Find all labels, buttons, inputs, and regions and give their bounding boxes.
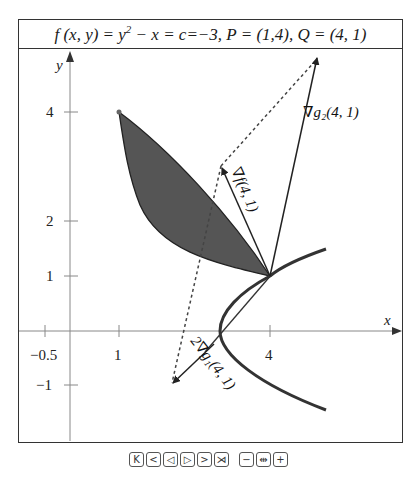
next-button[interactable]: > — [197, 452, 212, 467]
point-P — [117, 110, 122, 115]
first-frame-button[interactable]: K — [129, 452, 144, 467]
grad-f-label: ∇f(4, 1) — [227, 165, 262, 215]
y-tick-label: −1 — [36, 377, 52, 393]
y-axis-label: y — [54, 57, 63, 73]
dashed-line — [221, 60, 316, 166]
x-axis-arrow-icon — [392, 327, 402, 335]
plot-area: x y −0.5 1 4 4 2 1 −1 ∇g₂(4, 1) ∇f(4, 1)… — [0, 0, 420, 477]
zoom-in-button[interactable]: + — [273, 452, 288, 467]
y-tick-label: 1 — [46, 268, 54, 284]
spacer — [231, 452, 237, 467]
reset-speed-button[interactable]: ⇹ — [256, 452, 271, 467]
x-axis-label: x — [383, 312, 391, 328]
x-tick-label: 1 — [114, 347, 122, 363]
tangent-line — [205, 274, 272, 352]
zoom-out-button[interactable]: − — [239, 452, 254, 467]
y-axis-arrow-icon — [66, 51, 74, 62]
animation-controls: K < ◁ ▷ > ⋊ − ⇹ + — [129, 452, 288, 467]
step-back-button[interactable]: ◁ — [163, 452, 178, 467]
y-tick-label: 4 — [46, 104, 54, 120]
last-frame-button[interactable]: ⋊ — [214, 452, 229, 467]
level-curve — [220, 249, 326, 410]
previous-button[interactable]: < — [146, 452, 161, 467]
step-forward-button[interactable]: ▷ — [180, 452, 195, 467]
y-tick-label: 2 — [46, 213, 54, 229]
x-tick-label: −0.5 — [30, 347, 57, 363]
grad-g2-vector — [270, 58, 317, 276]
x-tick-label: 4 — [265, 347, 273, 363]
grad-g2-label: ∇g₂(4, 1) — [303, 104, 359, 121]
